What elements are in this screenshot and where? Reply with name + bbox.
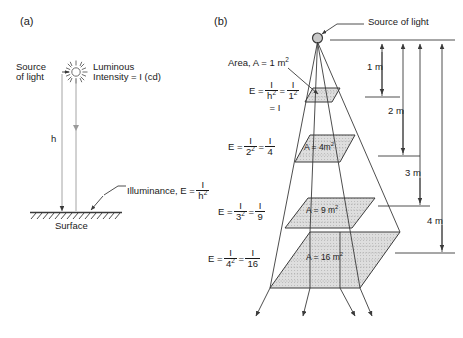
illuminance-fraction: I h2 (196, 180, 209, 202)
area-label-level-2: A = 4m2 (304, 143, 334, 152)
source-of-light-label-b: Source of light (368, 17, 429, 27)
eq2-mid: = (258, 142, 264, 152)
figure-vector-layer (0, 0, 463, 338)
dimension-label-2m: 2 m (388, 106, 404, 116)
area-label-level-3: A = 9 m2 (306, 206, 338, 215)
source-of-light-node (313, 33, 323, 43)
height-symbol-label: h (51, 134, 56, 144)
equation-level-1: E = I h2 = I 12 = I (232, 80, 318, 113)
eq3-lead: E = (218, 207, 233, 217)
eq4-lead: E = (208, 254, 223, 264)
source-label-line-2: of light (16, 72, 46, 82)
eq1-fraction-1: I h2 (265, 80, 278, 102)
source-leader-arrow-b (322, 24, 337, 34)
panel-b-tag: (b) (214, 16, 227, 28)
luminous-intensity-label: Luminous Intensity = I (cd) (93, 62, 161, 83)
dimension-label-4m: 4 m (427, 216, 443, 226)
illuminance-callout-connector (104, 186, 118, 195)
eq1-tail: = I (232, 103, 318, 113)
eq2-lead: E = (228, 142, 243, 152)
eq1-fraction-2: I 12 (287, 80, 300, 102)
source-of-light-label-a: Source of light (16, 62, 46, 83)
eq4-fraction-2: I 16 (245, 248, 260, 270)
light-ray-midpoint-arrow (73, 125, 79, 131)
panel-a-tag: (a) (20, 16, 33, 28)
surface-hatching (31, 213, 120, 219)
surface-label: Surface (55, 221, 88, 231)
illuminance-inverse-square-figure: (a) Source of light Luminous Intensity =… (0, 0, 463, 338)
eq3-fraction-1: I 32 (234, 201, 247, 223)
luminous-line-2: Intensity = I (cd) (93, 72, 161, 82)
dimension-label-1m: 1 m (367, 62, 383, 72)
illuminance-denominator: h2 (196, 190, 209, 201)
equation-level-4: E = I 42 = I 16 (208, 248, 262, 270)
eq4-fraction-1: I 42 (224, 248, 237, 270)
area-label-level-4: A = 16 m2 (306, 253, 343, 262)
eq1-lead: E = (249, 86, 264, 96)
area-callout-label: Area, A = 1 m2 (228, 58, 289, 68)
eq2-fraction-1: I 22 (244, 136, 257, 158)
eq1-mid: = (279, 86, 285, 96)
eq3-fraction-2: I 9 (255, 201, 264, 223)
eq4-mid: = (238, 254, 244, 264)
eq3-mid: = (248, 207, 254, 217)
dimension-label-3m: 3 m (405, 168, 421, 178)
eq2-fraction-2: I 4 (265, 136, 274, 158)
illuminance-equation: Illuminance, E = I h2 (127, 180, 211, 202)
equation-level-3: E = I 32 = I 9 (218, 201, 266, 223)
panel-a-vector (30, 61, 126, 220)
illuminance-equation-text: Illuminance, E = (127, 186, 195, 196)
illuminance-callout-arrow (91, 196, 103, 210)
equation-level-2: E = I 22 = I 4 (228, 136, 276, 158)
